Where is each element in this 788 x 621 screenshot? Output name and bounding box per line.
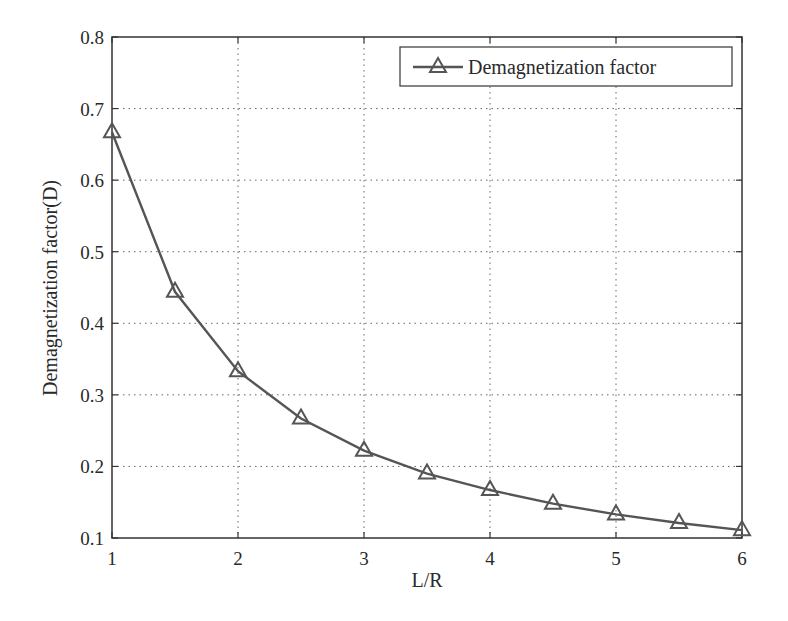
triangle-marker-icon	[671, 514, 687, 528]
y-tick-label: 0.3	[80, 385, 104, 406]
x-axis-tick-labels: 123456	[107, 548, 747, 569]
x-tick-label: 1	[107, 548, 117, 569]
y-axis-label: Demagnetization factor(D)	[39, 180, 62, 396]
y-tick-label: 0.2	[80, 456, 104, 477]
x-tick-label: 3	[359, 548, 369, 569]
x-tick-label: 5	[611, 548, 621, 569]
x-tick-label: 4	[485, 548, 495, 569]
series-line-demagnetization-factor	[112, 132, 742, 530]
x-tick-label: 6	[737, 548, 747, 569]
y-tick-label: 0.6	[80, 170, 104, 191]
line-chart: 123456 0.10.20.30.40.50.60.70.8 L/R Dema…	[0, 0, 788, 621]
y-tick-label: 0.4	[80, 313, 104, 334]
y-tick-label: 0.5	[80, 242, 104, 263]
x-tick-label: 2	[233, 548, 243, 569]
y-tick-label: 0.8	[80, 27, 104, 48]
y-tick-label: 0.1	[80, 528, 104, 549]
legend-label: Demagnetization factor	[468, 56, 657, 79]
legend: Demagnetization factor	[400, 47, 732, 86]
y-axis-tick-labels: 0.10.20.30.40.50.60.70.8	[80, 27, 104, 549]
x-axis-label: L/R	[411, 569, 443, 591]
y-tick-label: 0.7	[80, 99, 104, 120]
